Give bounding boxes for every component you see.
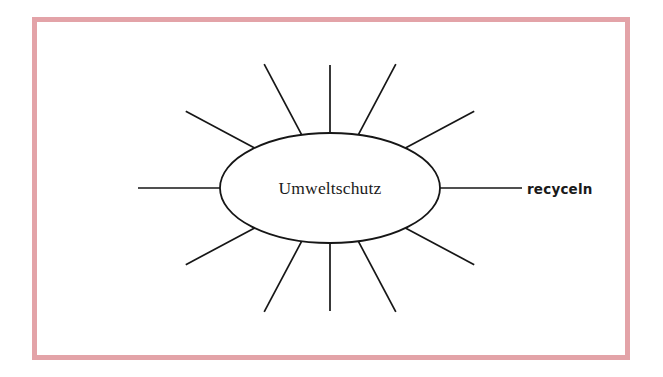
ray-east-southeast[interactable] xyxy=(405,228,474,265)
ray-east-northeast[interactable] xyxy=(405,111,474,148)
worksheet-page: Umweltschutz recyceln xyxy=(0,0,663,377)
center-topic-label: Umweltschutz xyxy=(279,178,382,198)
ray-label-recyceln[interactable]: recyceln xyxy=(527,181,593,197)
ray-north-northeast[interactable] xyxy=(358,64,396,135)
word-web-diagram: Umweltschutz recyceln xyxy=(0,0,663,377)
ray-south-southeast[interactable] xyxy=(358,241,396,312)
ray-north-northwest[interactable] xyxy=(264,64,302,135)
ray-west-northwest[interactable] xyxy=(186,111,255,148)
ray-west-southwest[interactable] xyxy=(186,228,255,265)
ray-south-southwest[interactable] xyxy=(264,241,302,312)
